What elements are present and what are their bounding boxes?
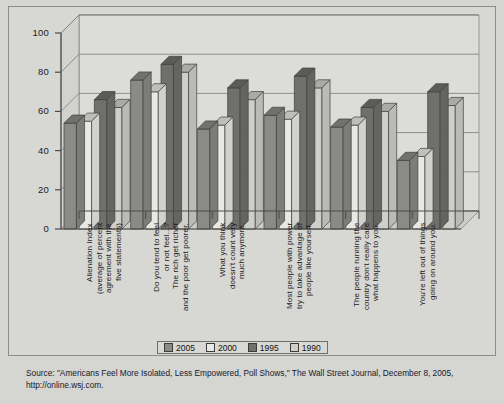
bar-side	[210, 121, 218, 229]
legend-label: 1990	[302, 343, 321, 353]
plot-area: 020406080100 Alienation Index (average o…	[9, 7, 495, 355]
bar-side	[322, 80, 330, 229]
bar-side	[373, 99, 381, 229]
legend-swatch-icon	[248, 343, 257, 352]
y-axis-tick-label: 100	[23, 27, 49, 38]
bar-front	[264, 115, 276, 229]
bar-front	[397, 160, 409, 229]
bar-side	[76, 115, 84, 229]
source-line-2: http://online.wsj.com.	[26, 380, 482, 392]
legend-item: 2005	[164, 343, 195, 353]
bar-front	[331, 127, 343, 229]
bar-side	[343, 119, 351, 229]
bar-side	[225, 117, 233, 229]
legend-swatch-icon	[164, 343, 173, 352]
legend-item: 1990	[290, 343, 321, 353]
chart-legend: 2005200019951990	[157, 341, 328, 354]
bar-side	[107, 92, 115, 229]
bar-front	[64, 123, 76, 229]
legend-label: 2000	[218, 343, 237, 353]
source-note: Source: "Americans Feel More Isolated, L…	[26, 368, 482, 391]
bar-side	[255, 92, 263, 229]
y-axis-tick-label: 0	[23, 223, 49, 234]
source-line-1: Source: "Americans Feel More Isolated, L…	[26, 368, 482, 380]
bar-side	[240, 80, 248, 229]
bar-side	[92, 113, 100, 229]
y-axis-tick-label: 20	[23, 184, 49, 195]
bar-side	[389, 103, 397, 229]
bar-side	[440, 84, 448, 229]
bar-side	[358, 117, 366, 229]
bar-side	[410, 152, 418, 229]
legend-swatch-icon	[206, 343, 215, 352]
y-axis-tick-label: 40	[23, 145, 49, 156]
bar-side	[455, 97, 463, 229]
bar-side	[307, 68, 315, 229]
bar-side	[425, 148, 433, 229]
legend-item: 1995	[248, 343, 279, 353]
legend-item: 2000	[206, 343, 237, 353]
bar-side	[189, 64, 197, 229]
chart-figure: 020406080100 Alienation Index (average o…	[0, 0, 504, 404]
figure-frame: 020406080100 Alienation Index (average o…	[8, 6, 496, 356]
y-axis-tick-label: 60	[23, 105, 49, 116]
bar-side	[173, 56, 181, 229]
legend-label: 2005	[176, 343, 195, 353]
bar-side	[158, 84, 166, 229]
y-axis-tick-label: 80	[23, 66, 49, 77]
bar-chart-svg	[9, 7, 495, 355]
legend-swatch-icon	[290, 343, 299, 352]
bar-front	[197, 129, 209, 229]
legend-label: 1995	[260, 343, 279, 353]
bar-front	[131, 80, 143, 229]
bar-side	[143, 72, 151, 229]
bar-side	[122, 99, 130, 229]
